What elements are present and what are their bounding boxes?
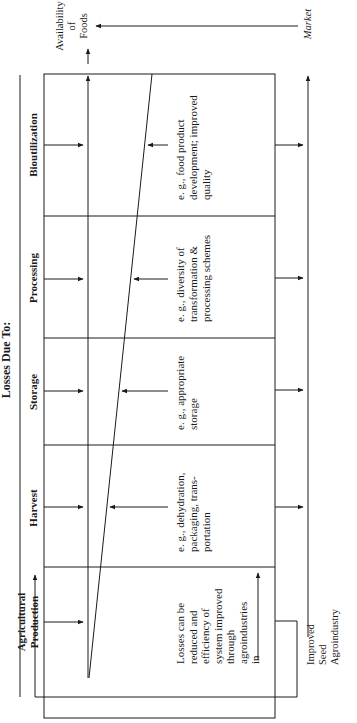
svg-text:Improved: Improved	[305, 623, 316, 665]
example-processing: e. g., diversity of transformation & pro…	[174, 235, 212, 322]
stage-label-processing: Processing	[27, 253, 39, 303]
stage-label-harvest: Harvest	[27, 489, 39, 527]
stage-label-bioutilization: Bioutilization	[27, 113, 39, 177]
stage-label-agricultural: Agricultural	[15, 593, 27, 652]
svg-text:in: in	[249, 655, 261, 664]
svg-text:e. g., dehydration,: e. g., dehydration,	[174, 472, 186, 552]
svg-text:storage: storage	[187, 398, 199, 430]
svg-text:portation: portation	[200, 512, 212, 552]
svg-text:reduced and: reduced and	[187, 610, 199, 664]
svg-text:system improved: system improved	[212, 588, 224, 664]
example-harvest: e. g., dehydration, packaging, trans- po…	[174, 472, 212, 552]
svg-text:e. g., appropriate: e. g., appropriate	[174, 356, 186, 430]
svg-text:Seed: Seed	[317, 644, 328, 665]
svg-text:Foods: Foods	[78, 13, 89, 39]
feedback-label: Improved Seed Agroindustry	[305, 608, 340, 665]
header-title: Losses Due To:	[0, 322, 13, 399]
svg-text:efficiency of: efficiency of	[199, 608, 211, 664]
example-bioutilization: e. g., food product development; improve…	[174, 95, 212, 200]
svg-text:processing schemes: processing schemes	[200, 235, 212, 322]
losses-slope-line	[89, 74, 152, 678]
svg-text:of: of	[66, 21, 77, 30]
example-storage: e. g., appropriate storage	[174, 356, 199, 430]
svg-text:Agroindustry: Agroindustry	[329, 608, 340, 665]
example-agricultural: Losses can be reduced and efficiency of …	[174, 588, 261, 664]
availability-label: Availability of Foods	[54, 1, 89, 51]
svg-text:development; improved: development; improved	[187, 95, 199, 200]
svg-text:agroindustries: agroindustries	[237, 602, 249, 664]
svg-text:Availability: Availability	[54, 1, 65, 51]
food-loss-diagram: Losses Due To: Bioutilization Processing…	[0, 0, 357, 723]
svg-text:Losses can be: Losses can be	[174, 603, 186, 664]
market-label: Market	[302, 8, 313, 40]
svg-text:packaging, trans-: packaging, trans-	[187, 476, 199, 552]
svg-text:through: through	[224, 629, 236, 664]
stage-label-production: Production	[28, 596, 40, 648]
svg-text:transformation &: transformation &	[187, 245, 199, 322]
svg-text:e. g., diversity of: e. g., diversity of	[174, 247, 186, 322]
stage-label-storage: Storage	[27, 374, 39, 410]
svg-text:quality: quality	[200, 169, 212, 200]
svg-text:e. g., food product: e. g., food product	[174, 119, 186, 200]
